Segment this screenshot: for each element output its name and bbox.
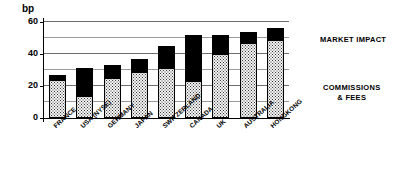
bar-segment-commissions-fees bbox=[212, 54, 229, 118]
legend-item-market-impact: MARKET IMPACT bbox=[320, 35, 386, 45]
bar-japan bbox=[131, 59, 148, 118]
bar-segment-market-impact bbox=[185, 35, 202, 82]
x-axis-category-labels: FRANCEUSA (NYSE)GERMANYJAPANSWITZERLANDC… bbox=[44, 118, 294, 188]
bar-segment-market-impact bbox=[131, 59, 148, 73]
plot-area bbox=[44, 22, 289, 118]
y-tick-mark-20 bbox=[40, 86, 44, 87]
bar-segment-market-impact bbox=[158, 46, 175, 69]
bar-france bbox=[49, 75, 66, 118]
bar-switzerland bbox=[158, 46, 175, 118]
y-axis-tick-labels: 6040200 bbox=[12, 0, 38, 188]
bar-segment-market-impact bbox=[49, 75, 66, 81]
bar-usa-nyse bbox=[76, 68, 93, 118]
legend-commissions-line2: & FEES bbox=[337, 93, 366, 102]
bar-segment-market-impact bbox=[267, 28, 284, 40]
y-tick-label-0: 0 bbox=[16, 113, 38, 122]
y-tick-mark-40 bbox=[40, 54, 44, 55]
legend-item-commissions-fees: COMMISSIONS & FEES bbox=[323, 83, 380, 103]
y-tick-label-20: 20 bbox=[16, 81, 38, 90]
chart-figure: bp 6040200 FRANCEUSA (NYSE)GERMANYJAPANS… bbox=[0, 0, 411, 188]
bar-australia bbox=[240, 32, 257, 118]
bar-segment-commissions-fees bbox=[158, 68, 175, 118]
y-tick-mark-0 bbox=[40, 118, 44, 119]
y-tick-mark-60 bbox=[40, 22, 44, 23]
bar-germany bbox=[104, 65, 121, 118]
legend-commissions-line1: COMMISSIONS bbox=[323, 83, 380, 92]
bar-segment-market-impact bbox=[212, 35, 229, 55]
y-tick-label-40: 40 bbox=[16, 49, 38, 58]
bar-segment-market-impact bbox=[240, 32, 257, 44]
bar-segment-market-impact bbox=[104, 65, 121, 79]
bar-uk bbox=[212, 35, 229, 118]
gridline-major-60 bbox=[44, 21, 289, 22]
chart-legend: MARKET IMPACT COMMISSIONS & FEES bbox=[320, 0, 411, 188]
bar-segment-commissions-fees bbox=[131, 72, 148, 118]
bar-segment-market-impact bbox=[76, 68, 93, 96]
x-label-uk: UK bbox=[215, 118, 227, 130]
y-tick-label-60: 60 bbox=[16, 17, 38, 26]
bar-segment-commissions-fees bbox=[240, 43, 257, 118]
